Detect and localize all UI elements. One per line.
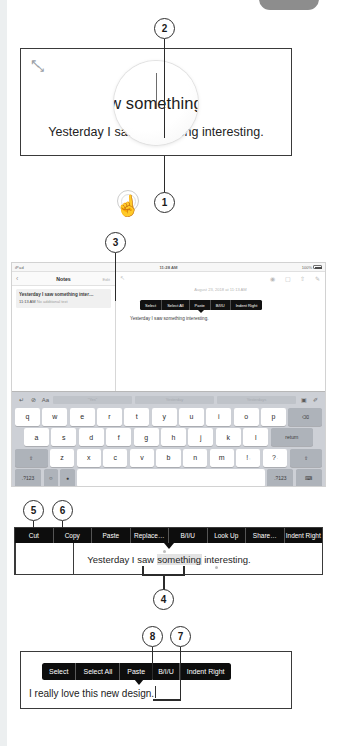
note-toolbar: ↖ ◉ ▢ ⇧ ✎ bbox=[116, 272, 325, 286]
edit-button[interactable]: Edit bbox=[102, 277, 110, 282]
dictation-mic-key[interactable]: ● bbox=[60, 469, 74, 487]
emoji-key[interactable]: ☺ bbox=[44, 469, 58, 487]
undo-icon[interactable]: ↵ bbox=[17, 397, 26, 403]
select-menu-item-select-all[interactable]: Select All bbox=[76, 663, 120, 680]
shift-key-right[interactable]: ⇧ bbox=[290, 449, 323, 467]
shift-key-left[interactable]: ⇧ bbox=[15, 449, 48, 467]
clear-format-icon[interactable]: ⊘ bbox=[29, 397, 38, 403]
menu-item-paste[interactable]: Paste bbox=[92, 528, 131, 543]
key-b[interactable]: b bbox=[156, 449, 180, 467]
key-y[interactable]: y bbox=[152, 408, 177, 426]
key-l[interactable]: l bbox=[243, 428, 268, 446]
text-style-icon[interactable]: Aa bbox=[41, 397, 50, 403]
battery-icon bbox=[313, 265, 322, 269]
prediction-word-1[interactable]: "Yes" bbox=[53, 396, 132, 404]
key-h[interactable]: h bbox=[161, 428, 186, 446]
markup-pen-icon[interactable]: ✐ bbox=[311, 397, 320, 403]
status-time: 11:28 AM bbox=[160, 265, 178, 270]
popup-item-biu[interactable]: B/I/U bbox=[211, 300, 231, 310]
prediction-word-2[interactable]: Yesterday bbox=[135, 396, 214, 404]
callout-7: 7 bbox=[170, 626, 191, 647]
note-list-item-title: Yesterday I saw something inter… bbox=[19, 292, 108, 297]
select-menu-item-indent-right[interactable]: Indent Right bbox=[180, 663, 232, 680]
leader-line-6 bbox=[62, 521, 64, 528]
key-r[interactable]: r bbox=[97, 408, 122, 426]
key-f[interactable]: f bbox=[106, 428, 131, 446]
text-caret bbox=[156, 73, 157, 109]
key-t[interactable]: t bbox=[124, 408, 149, 426]
figure-page: 2 ↖ ↘ w something Yesterday I saw someth… bbox=[0, 0, 337, 746]
key-a[interactable]: a bbox=[24, 428, 49, 446]
key-p[interactable]: p bbox=[261, 408, 286, 426]
popup-item-select-all[interactable]: Select All bbox=[162, 300, 189, 310]
select-menu-item-paste[interactable]: Paste bbox=[120, 663, 153, 680]
key-d[interactable]: d bbox=[79, 428, 104, 446]
key-c[interactable]: c bbox=[103, 449, 127, 467]
notes-sidebar: ‹ Notes Edit Yesterday I saw something i… bbox=[12, 272, 116, 393]
share-icon[interactable]: ⇧ bbox=[299, 276, 306, 283]
key-u[interactable]: u bbox=[179, 408, 204, 426]
key-n[interactable]: n bbox=[183, 449, 207, 467]
popup-item-indent-right[interactable]: Indent Right bbox=[231, 300, 263, 310]
selection-handle-end-icon[interactable] bbox=[215, 566, 218, 569]
key-e[interactable]: e bbox=[70, 408, 95, 426]
callout-6: 6 bbox=[52, 500, 73, 521]
key-i[interactable]: i bbox=[206, 408, 231, 426]
callout-1: 1 bbox=[154, 192, 175, 213]
popup-item-paste[interactable]: Paste bbox=[190, 300, 211, 310]
back-chevron-icon[interactable]: ‹ bbox=[16, 275, 18, 282]
callout-8: 8 bbox=[142, 626, 163, 647]
key-exclaim-comma[interactable]: !, bbox=[236, 449, 260, 467]
selected-word[interactable]: something bbox=[157, 554, 202, 565]
key-x[interactable]: x bbox=[77, 449, 101, 467]
dismiss-keyboard-key[interactable]: ⌨ bbox=[296, 469, 322, 487]
cut-copy-menubar: Cut Copy Paste Replace… B/I/U Look Up Sh… bbox=[15, 528, 322, 543]
key-q[interactable]: q bbox=[15, 408, 40, 426]
key-v[interactable]: v bbox=[130, 449, 154, 467]
checklist-icon[interactable]: ◉ bbox=[269, 276, 276, 283]
key-k[interactable]: k bbox=[216, 428, 241, 446]
menu-item-cut[interactable]: Cut bbox=[15, 528, 54, 543]
numeric-key-left[interactable]: .?123 bbox=[15, 469, 41, 487]
menu-item-replace[interactable]: Replace… bbox=[131, 528, 170, 543]
selection-handle-start-icon[interactable] bbox=[163, 550, 166, 553]
key-o[interactable]: o bbox=[234, 408, 259, 426]
note-date: August 23, 2018 at 11:13 AM bbox=[116, 287, 325, 292]
return-key[interactable]: return bbox=[271, 428, 313, 446]
select-menu-item-select[interactable]: Select bbox=[42, 663, 76, 680]
numeric-key-right[interactable]: .?123 bbox=[267, 469, 293, 487]
menu-item-copy[interactable]: Copy bbox=[54, 528, 93, 543]
key-z[interactable]: z bbox=[50, 449, 74, 467]
space-key[interactable] bbox=[77, 469, 265, 487]
leader-line-3 bbox=[115, 253, 117, 301]
key-question-period[interactable]: ?. bbox=[263, 449, 287, 467]
note-body-text[interactable]: Yesterday I saw something interesting. bbox=[130, 316, 208, 321]
prediction-word-3[interactable]: Yesterdays bbox=[217, 396, 296, 404]
key-g[interactable]: g bbox=[134, 428, 159, 446]
note-list-item[interactable]: Yesterday I saw something inter… 11:13 A… bbox=[16, 289, 111, 308]
trash-icon[interactable]: ▢ bbox=[284, 276, 291, 283]
key-s[interactable]: s bbox=[51, 428, 76, 446]
camera-icon[interactable]: ▣ bbox=[299, 397, 308, 403]
menu-item-biu[interactable]: B/I/U bbox=[169, 528, 208, 543]
key-j[interactable]: j bbox=[188, 428, 213, 446]
cut-copy-sentence[interactable]: Yesterday I saw something interesting. bbox=[87, 554, 250, 565]
predictive-text-bar: ↵ ⊘ Aa "Yes" Yesterday Yesterdays ▣ ✐ bbox=[15, 394, 322, 405]
ipad-edit-popup-menu: Select Select All Paste B/I/U Indent Rig… bbox=[140, 300, 262, 310]
note-toolbar-icons: ◉ ▢ ⇧ ✎ bbox=[269, 276, 321, 283]
tap-hand-cursor-icon: ☝ bbox=[114, 190, 148, 224]
key-w[interactable]: w bbox=[42, 408, 67, 426]
compose-icon[interactable]: ✎ bbox=[314, 276, 321, 283]
menu-item-look-up[interactable]: Look Up bbox=[208, 528, 247, 543]
keyboard-row-4: .?123 ☺ ● .?123 ⌨ bbox=[15, 469, 322, 487]
menu-item-indent-right[interactable]: Indent Right bbox=[285, 528, 323, 543]
key-m[interactable]: m bbox=[210, 449, 234, 467]
select-menu-item-biu[interactable]: B/I/U bbox=[153, 663, 180, 680]
menu-item-share[interactable]: Share… bbox=[246, 528, 285, 543]
top-rounded-tab bbox=[259, 0, 319, 10]
select-panel-sentence[interactable]: I really love this new design. bbox=[29, 688, 154, 699]
backspace-key[interactable]: ⌫ bbox=[288, 408, 322, 426]
popup-item-select[interactable]: Select bbox=[140, 300, 162, 310]
leader-line-7-horiz bbox=[153, 699, 181, 701]
menu-pointer-arrow-icon bbox=[164, 543, 174, 549]
